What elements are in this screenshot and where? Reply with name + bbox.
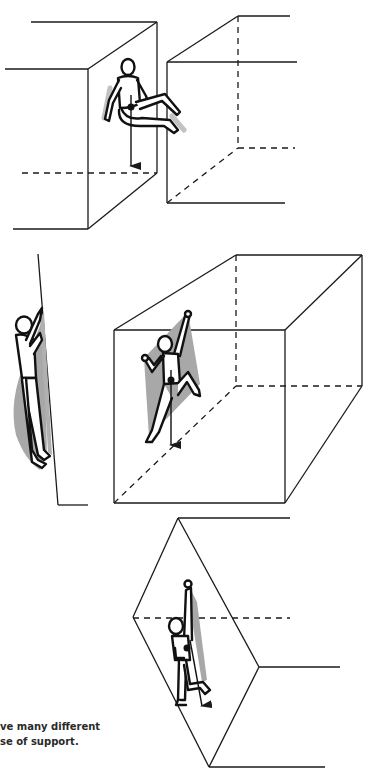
balance-diagram xyxy=(0,0,368,769)
climber-figure-seated xyxy=(104,59,184,166)
caption-line-2: se of support. xyxy=(0,734,100,749)
climber-figure-frontal xyxy=(142,311,200,445)
rhombic-face xyxy=(133,518,340,767)
caption: ve many different se of support. xyxy=(0,719,100,749)
right-block xyxy=(167,16,297,203)
caption-line-1: ve many different xyxy=(0,719,100,734)
center-of-mass-dot xyxy=(184,645,191,652)
side-climber xyxy=(14,308,52,470)
climber-figure-hanging xyxy=(169,581,210,707)
